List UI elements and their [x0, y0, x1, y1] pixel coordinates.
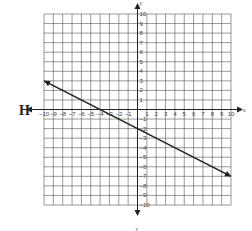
axes: [26, 3, 243, 216]
x-tick-label: −7: [69, 111, 77, 117]
y-tick-label: −9: [140, 192, 148, 198]
y-tick-label: −10: [140, 202, 151, 208]
x-tick-label: 7: [201, 111, 205, 117]
x-tick-label: −8: [59, 111, 67, 117]
x-tick-label: 6: [192, 111, 196, 117]
x-axis-label: x: [242, 107, 246, 113]
y-tick-label: −6: [140, 164, 148, 170]
y-axis-label-top: y: [139, 0, 143, 6]
x-tick-label: 8: [211, 111, 215, 117]
y-axis-label-bottom: y: [135, 226, 139, 231]
graph-label: H: [19, 103, 30, 118]
coordinate-plane-chart: −10−9−8−7−6−5−4−3−2−112345678910−10−9−8−…: [0, 0, 252, 231]
x-tick-label: 2: [155, 111, 159, 117]
x-tick-label: −9: [50, 111, 58, 117]
x-tick-label: 4: [173, 111, 177, 117]
x-tick-label: −2: [115, 111, 123, 117]
y-tick-label: −8: [140, 183, 148, 189]
x-tick-label: 3: [164, 111, 168, 117]
y-tick-label: −3: [140, 135, 148, 141]
x-tick-label: −10: [39, 111, 50, 117]
y-tick-label: −7: [140, 173, 148, 179]
y-tick-label: −1: [140, 116, 148, 122]
y-tick-label: −4: [140, 145, 148, 151]
x-tick-label: −5: [87, 111, 95, 117]
x-tick-label: −1: [125, 111, 133, 117]
x-tick-label: 9: [220, 111, 224, 117]
x-tick-label: −6: [78, 111, 86, 117]
x-tick-label: 10: [228, 111, 235, 117]
y-tick-label: 10: [140, 11, 147, 17]
x-tick-label: 5: [183, 111, 187, 117]
y-tick-label: −5: [140, 154, 148, 160]
